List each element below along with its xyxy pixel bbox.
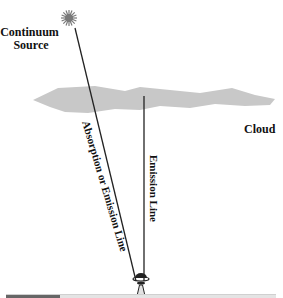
cloud-shape bbox=[33, 86, 275, 113]
star-burst-icon bbox=[61, 10, 77, 26]
emission-line-label: Emission Line bbox=[148, 155, 160, 222]
telescope-icon bbox=[133, 273, 149, 296]
diagram-canvas: Continuum Source Cloud Absorption or Emi… bbox=[0, 0, 283, 298]
continuum-source-label: Continuum Source bbox=[0, 25, 62, 52]
progress-bar bbox=[6, 294, 276, 298]
absorption-line-label: Absorption or Emission Line bbox=[80, 119, 130, 253]
cloud-label: Cloud bbox=[244, 122, 276, 136]
